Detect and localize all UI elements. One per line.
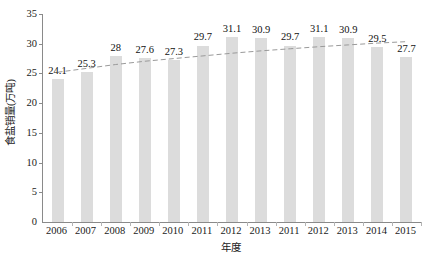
plot-area: 24.125.32827.627.329.731.130.929.731.130… [42,14,421,223]
y-tick-label: 15 [27,128,38,139]
y-tick-label: 35 [27,9,38,20]
y-tick-label: 5 [32,187,37,198]
x-tick-label: 2013 [250,226,271,237]
x-tick-mark [421,222,422,226]
y-axis-tick-labels: 05101520253035 [14,0,40,225]
x-tick-label: 2006 [46,226,67,237]
x-tick-label: 2011 [279,226,300,237]
y-tick-label: 20 [27,98,38,109]
y-tick-mark [39,73,43,74]
y-tick-mark [39,163,43,164]
y-tick-label: 25 [27,68,38,79]
x-tick-label: 2014 [366,226,387,237]
x-tick-label: 2009 [133,226,154,237]
y-tick-label: 10 [27,157,38,168]
x-tick-label: 2012 [308,226,329,237]
x-tick-label: 2007 [75,226,96,237]
trend-line-layer [43,14,421,222]
x-tick-label: 2008 [104,226,125,237]
x-axis-tick-labels: 2006200720082009201020112012201320112012… [42,226,420,242]
x-tick-label: 2012 [221,226,242,237]
y-tick-label: 30 [27,38,38,49]
x-axis-title-text: 年度 [221,242,241,253]
y-tick-mark [39,14,43,15]
y-tick-mark [39,192,43,193]
x-axis-title: 年度 [42,243,420,254]
x-tick-label: 2011 [192,226,213,237]
salt-sales-bar-chart: 食盐销量(万吨) 05101520253035 24.125.32827.627… [0,0,426,265]
x-tick-label: 2015 [395,226,416,237]
x-tick-label: 2013 [337,226,358,237]
y-tick-mark [39,103,43,104]
y-tick-mark [39,133,43,134]
x-tick-label: 2010 [162,226,183,237]
trend-line [58,42,407,73]
y-tick-mark [39,44,43,45]
y-tick-label: 0 [32,217,37,228]
